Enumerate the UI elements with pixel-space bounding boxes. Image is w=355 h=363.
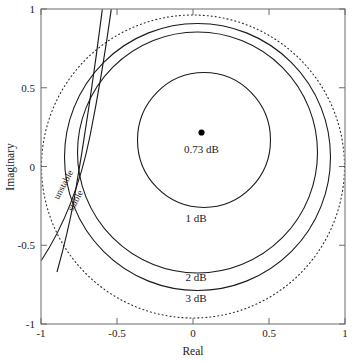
y-tick-label: 1 xyxy=(30,3,36,15)
x-tick-label: 1 xyxy=(342,327,348,339)
x-tick-label: 0 xyxy=(190,327,196,339)
x-tick-label: -1 xyxy=(36,327,45,339)
contour-1db-label: 1 dB xyxy=(185,212,206,224)
x-tick-label: -0.5 xyxy=(108,327,126,339)
design-point-marker xyxy=(198,129,204,135)
design-point-label: 0.73 dB xyxy=(184,143,219,155)
chart-figure: 0.73 dB 1 dB 2 dB 3 dB unstable stable -… xyxy=(0,0,355,363)
x-tick-label: 0.5 xyxy=(262,327,276,339)
x-axis-title: Real xyxy=(182,345,203,357)
contour-3db-label: 3 dB xyxy=(185,292,206,304)
y-tick-label: 0 xyxy=(30,161,36,173)
y-tick-label: -0.5 xyxy=(18,239,36,251)
y-tick-label: -1 xyxy=(26,318,35,330)
chart-svg: 0.73 dB 1 dB 2 dB 3 dB unstable stable -… xyxy=(0,0,355,363)
figure-background xyxy=(0,0,355,363)
y-axis-title: Imaginary xyxy=(4,143,17,191)
contour-2db-label: 2 dB xyxy=(185,271,206,283)
y-tick-label: 0.5 xyxy=(21,82,35,94)
